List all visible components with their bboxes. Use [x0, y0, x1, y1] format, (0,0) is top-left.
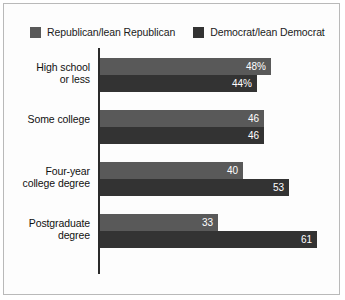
- bar-group: Some college 46 46: [4, 110, 341, 144]
- category-label-line: or less: [6, 74, 90, 86]
- legend-label-republican: Republican/lean Republican: [47, 26, 175, 38]
- legend-swatch-republican: [30, 27, 41, 38]
- bar-pair: 33 61: [100, 214, 317, 248]
- bar-value-label: 46: [248, 113, 264, 124]
- bar-democrat: 53: [100, 179, 289, 196]
- bar-value-label: 40: [227, 165, 243, 176]
- bar-pair: 48% 44%: [100, 58, 271, 92]
- category-label-line: Four-year: [6, 166, 90, 178]
- category-label: Four-year college degree: [6, 166, 90, 189]
- bar-democrat: 46: [100, 127, 264, 144]
- bar-group: High school or less 48% 44%: [4, 58, 341, 92]
- bar-value-label: 61: [301, 234, 317, 245]
- bar-value-label: 44%: [232, 78, 257, 89]
- category-label-line: college degree: [6, 178, 90, 190]
- category-label-line: Postgraduate: [6, 218, 90, 230]
- category-label: High school or less: [6, 62, 90, 85]
- category-label-line: degree: [6, 230, 90, 242]
- plot-area: High school or less 48% 44% Some college…: [4, 48, 341, 280]
- category-label: Postgraduate degree: [6, 218, 90, 241]
- category-label-line: High school: [6, 62, 90, 74]
- bar-democrat: 61: [100, 231, 317, 248]
- bar-value-label: 53: [273, 182, 289, 193]
- bar-republican: 48%: [100, 58, 271, 75]
- legend-entry-republican: Republican/lean Republican: [30, 26, 175, 38]
- bar-value-label: 46: [248, 130, 264, 141]
- bar-republican: 33: [100, 214, 218, 231]
- legend-swatch-democrat: [193, 27, 204, 38]
- legend-entry-democrat: Democrat/lean Democrat: [193, 26, 325, 38]
- category-label-line: Some college: [6, 114, 90, 126]
- bar-pair: 46 46: [100, 110, 264, 144]
- bar-group: Postgraduate degree 33 61: [4, 214, 341, 248]
- bar-republican: 40: [100, 162, 243, 179]
- chart-legend: Republican/lean Republican Democrat/lean…: [30, 26, 325, 38]
- bar-republican: 46: [100, 110, 264, 127]
- chart-frame: Republican/lean Republican Democrat/lean…: [3, 3, 340, 295]
- bar-value-label: 48%: [246, 61, 271, 72]
- legend-label-democrat: Democrat/lean Democrat: [210, 26, 325, 38]
- bar-group: Four-year college degree 40 53: [4, 162, 341, 196]
- category-label: Some college: [6, 114, 90, 126]
- bar-value-label: 33: [202, 217, 218, 228]
- bar-pair: 40 53: [100, 162, 289, 196]
- bar-democrat: 44%: [100, 75, 257, 92]
